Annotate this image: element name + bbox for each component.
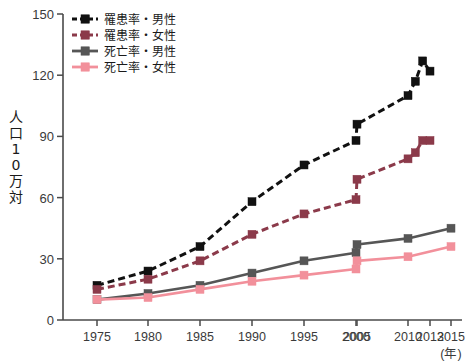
series-point-marker xyxy=(300,210,308,218)
series-point-marker xyxy=(196,285,204,293)
y-axis-title-char: 口 xyxy=(9,125,23,141)
chart-axes: 0306090120150197519801985199019952000200… xyxy=(9,7,465,361)
y-tick-label: 90 xyxy=(40,129,54,144)
x-tick-label: 1995 xyxy=(290,330,318,344)
legend-item: 罹患率・女性 xyxy=(72,28,176,43)
chart-series-group xyxy=(93,57,455,304)
x-axis-unit-label: (年) xyxy=(440,347,461,361)
chart-canvas: 0306090120150197519801985199019952000200… xyxy=(0,0,469,363)
legend-item-label: 死亡率・女性 xyxy=(104,60,176,75)
cancer-rate-line-chart: 0306090120150197519801985199019952000200… xyxy=(0,0,469,363)
series-point-marker xyxy=(352,249,360,257)
series-point-marker xyxy=(300,257,308,265)
series-point-marker xyxy=(447,224,455,232)
y-axis-title-char: 万 xyxy=(9,173,23,189)
legend-item: 死亡率・女性 xyxy=(72,60,176,75)
y-tick-label: 0 xyxy=(47,313,54,328)
x-tick-label: 2015 xyxy=(437,330,465,344)
series-point-marker xyxy=(352,136,360,144)
series-point-marker xyxy=(144,267,152,275)
series-point-marker xyxy=(353,241,361,249)
series-point-marker xyxy=(196,257,204,265)
series-point-marker xyxy=(248,198,256,206)
x-tick-label: 2005 xyxy=(343,330,371,344)
y-axis-title-char: 対 xyxy=(9,189,23,205)
y-tick-label: 120 xyxy=(32,68,54,83)
series-line xyxy=(97,61,430,285)
series-point-marker xyxy=(300,271,308,279)
y-tick-label: 60 xyxy=(40,191,54,206)
legend-swatch-marker xyxy=(81,47,89,55)
series-point-marker xyxy=(248,277,256,285)
series-point-marker xyxy=(144,275,152,283)
legend-item: 罹患率・男性 xyxy=(72,12,176,27)
y-axis-title-char: 人 xyxy=(9,109,23,125)
y-axis-title: 人口10万対 xyxy=(9,109,23,205)
series-point-marker xyxy=(352,196,360,204)
series-point-marker xyxy=(248,230,256,238)
x-tick-label: 1985 xyxy=(186,330,214,344)
chart-series xyxy=(93,57,434,289)
y-tick-label: 30 xyxy=(40,252,54,267)
series-point-marker xyxy=(419,136,427,144)
series-point-marker xyxy=(419,57,427,65)
chart-legend: 罹患率・男性罹患率・女性死亡率・男性死亡率・女性 xyxy=(72,12,176,75)
legend-item-label: 罹患率・女性 xyxy=(104,28,176,43)
series-point-marker xyxy=(426,67,434,75)
series-line xyxy=(97,228,451,299)
series-point-marker xyxy=(93,285,101,293)
series-point-marker xyxy=(404,234,412,242)
series-point-marker xyxy=(196,243,204,251)
series-point-marker xyxy=(411,77,419,85)
series-point-marker xyxy=(352,265,360,273)
legend-item-label: 罹患率・男性 xyxy=(104,12,176,27)
series-point-marker xyxy=(248,269,256,277)
series-point-marker xyxy=(353,175,361,183)
chart-series xyxy=(93,224,455,303)
legend-item-label: 死亡率・男性 xyxy=(104,44,176,59)
series-point-marker xyxy=(93,296,101,304)
y-tick-label: 150 xyxy=(32,7,54,22)
series-point-marker xyxy=(144,294,152,302)
legend-swatch-marker xyxy=(81,31,89,39)
series-point-marker xyxy=(353,120,361,128)
x-tick-label: 1980 xyxy=(134,330,162,344)
series-point-marker xyxy=(411,149,419,157)
series-point-marker xyxy=(447,243,455,251)
legend-swatch-marker xyxy=(81,15,89,23)
series-point-marker xyxy=(426,136,434,144)
series-point-marker xyxy=(404,92,412,100)
y-axis-title-char: 0 xyxy=(12,157,21,173)
series-point-marker xyxy=(300,161,308,169)
legend-swatch-marker xyxy=(81,63,89,71)
series-point-marker xyxy=(404,253,412,261)
legend-item: 死亡率・男性 xyxy=(72,44,176,59)
x-tick-label: 1975 xyxy=(83,330,111,344)
series-point-marker xyxy=(353,257,361,265)
y-axis-title-char: 1 xyxy=(12,141,21,157)
series-point-marker xyxy=(404,155,412,163)
x-tick-label: 1990 xyxy=(238,330,266,344)
